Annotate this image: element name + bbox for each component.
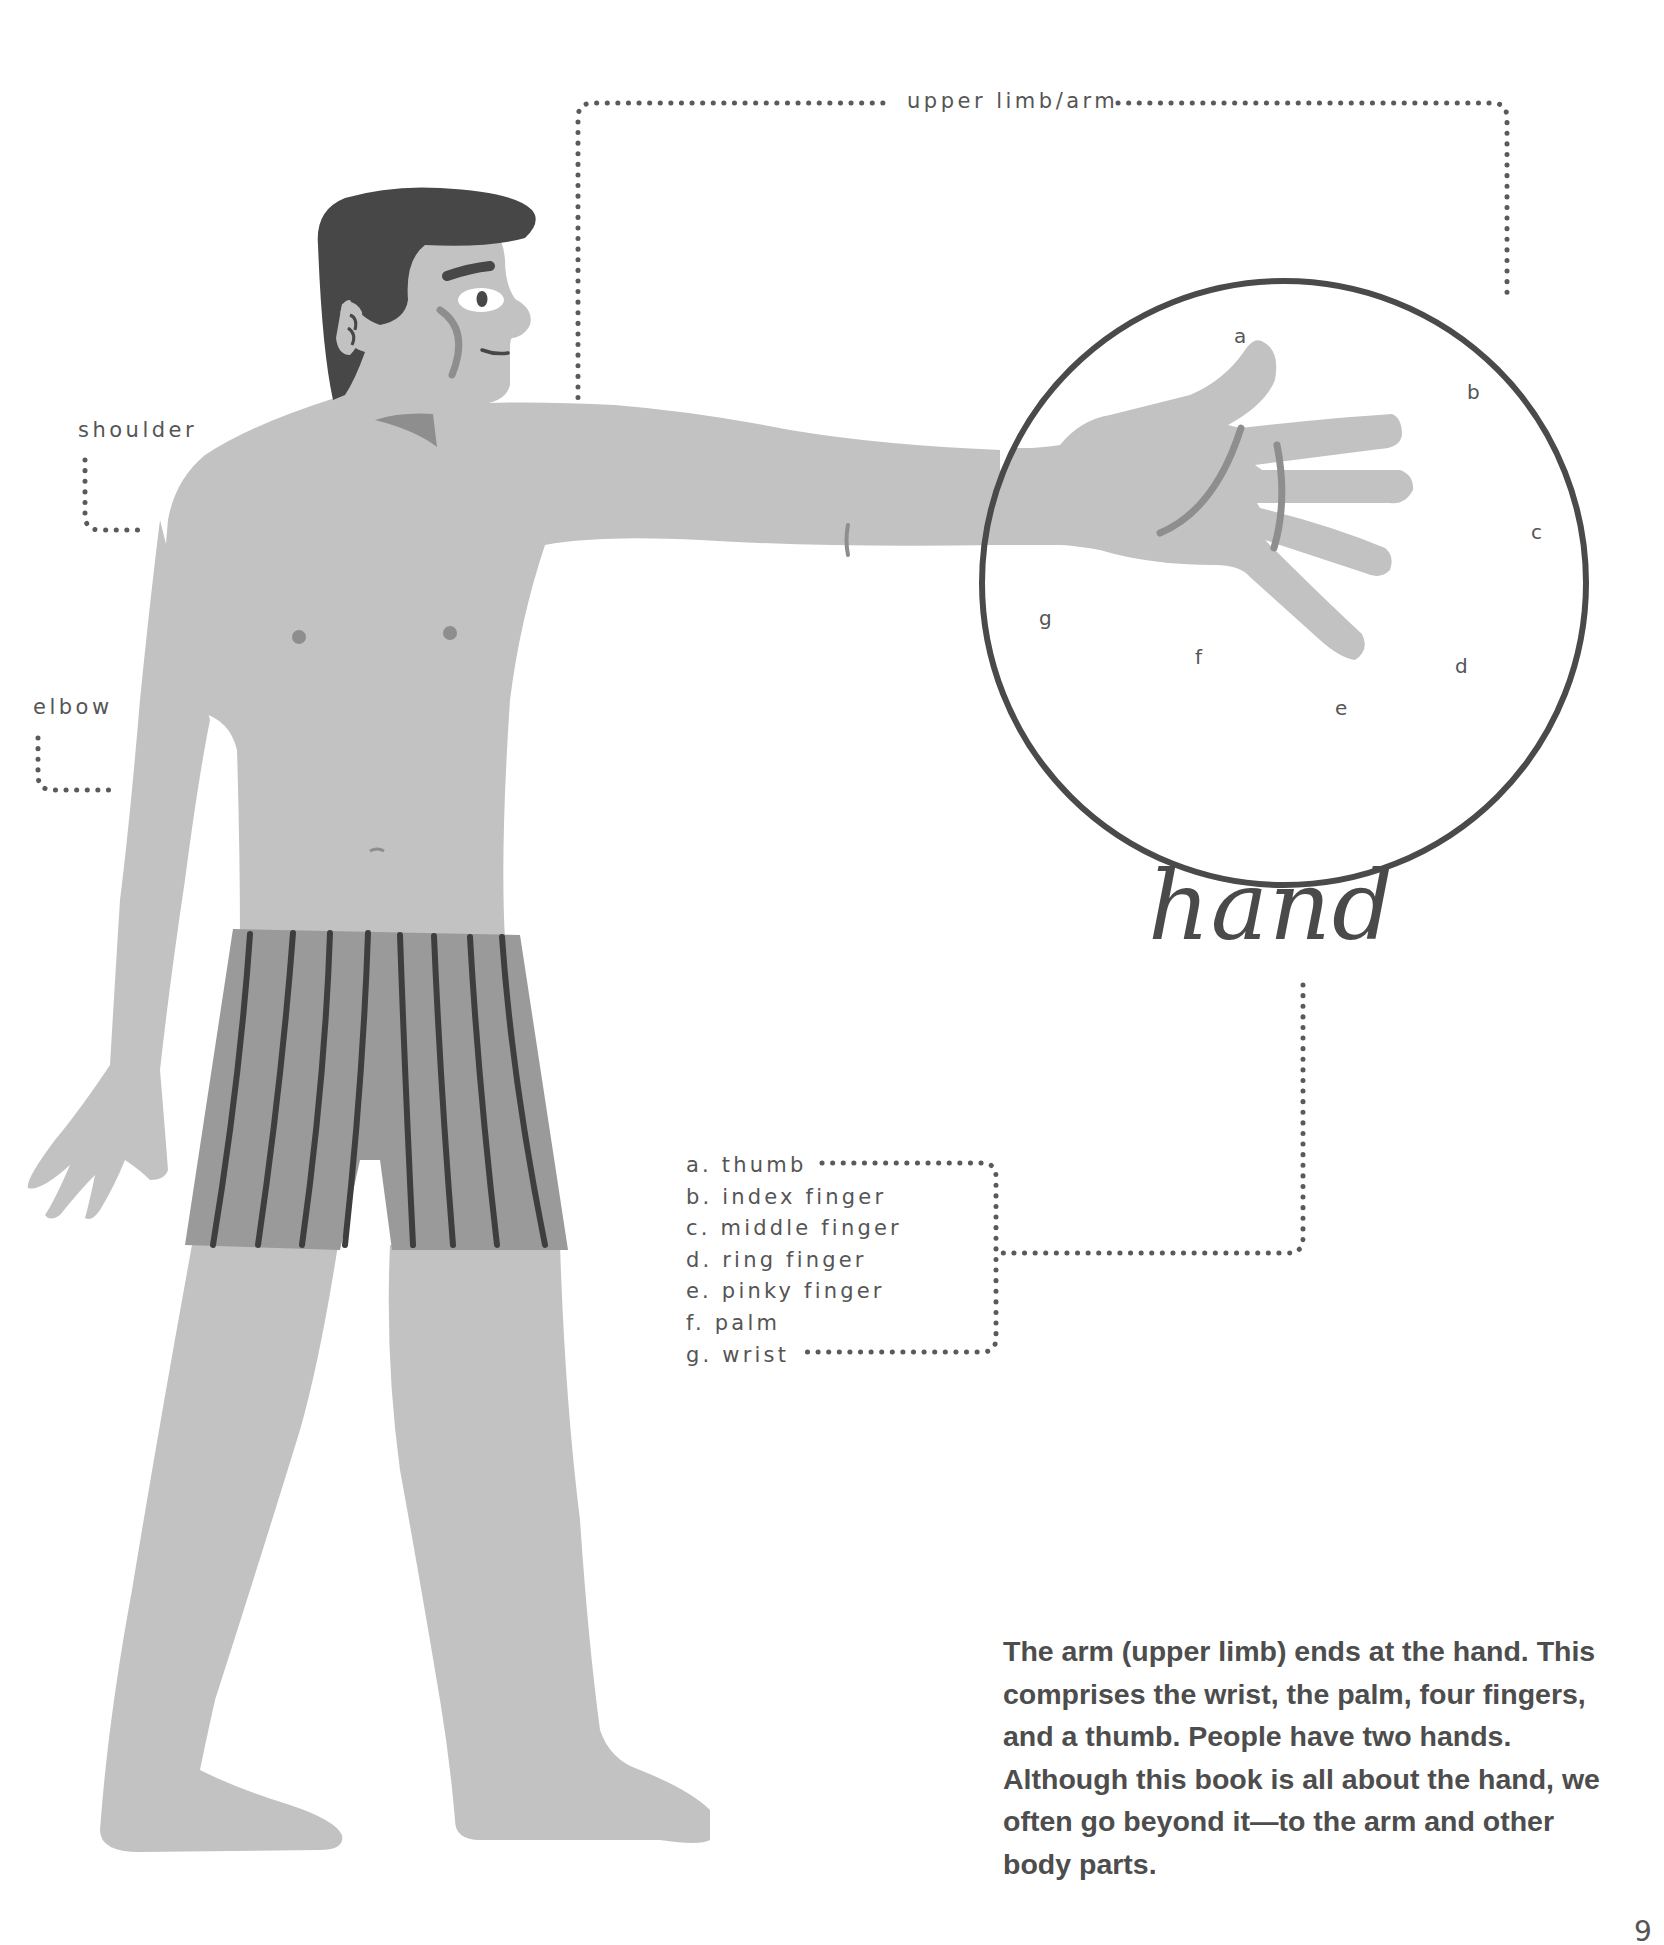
legend-item-palm: f. palm	[686, 1308, 902, 1340]
legend-item-pinky-finger: e. pinky finger	[686, 1276, 902, 1308]
elbow-connector	[38, 738, 112, 790]
shoulder-connector	[85, 460, 146, 530]
callout-f: f	[1195, 647, 1202, 667]
elbow-crease	[847, 525, 849, 555]
right-leg	[389, 1245, 710, 1843]
callout-g: g	[1039, 608, 1052, 628]
shoulder-label: shoulder	[78, 420, 197, 441]
upper-limb-bracket	[578, 103, 892, 440]
legend-item-thumb: a. thumb	[686, 1150, 902, 1182]
description-paragraph: The arm (upper limb) ends at the hand. T…	[1003, 1630, 1603, 1885]
legend-item-middle-finger: c. middle finger	[686, 1213, 902, 1245]
callout-d: d	[1455, 656, 1468, 676]
left-leg	[100, 1245, 342, 1852]
callout-e: e	[1335, 698, 1347, 718]
nose	[505, 295, 531, 338]
page-number: 9	[1634, 1918, 1652, 1945]
elbow-label: elbow	[33, 697, 113, 718]
callout-b: b	[1467, 382, 1480, 402]
legend-item-wrist: g. wrist	[686, 1340, 902, 1372]
torso	[164, 385, 1000, 940]
hand-magnifier	[960, 281, 1586, 885]
nipple-right	[443, 626, 457, 640]
legend-item-index-finger: b. index finger	[686, 1182, 902, 1214]
callout-a: a	[1234, 326, 1246, 346]
shorts	[185, 929, 568, 1250]
parts-legend: a. thumb b. index finger c. middle finge…	[686, 1150, 902, 1371]
title-connector	[1003, 985, 1303, 1253]
callout-c: c	[1531, 522, 1542, 542]
upper-limb-label: upper limb/arm	[907, 91, 1118, 112]
nipple-left	[292, 630, 306, 644]
legend-item-ring-finger: d. ring finger	[686, 1245, 902, 1277]
hand-title: hand	[1148, 858, 1394, 954]
